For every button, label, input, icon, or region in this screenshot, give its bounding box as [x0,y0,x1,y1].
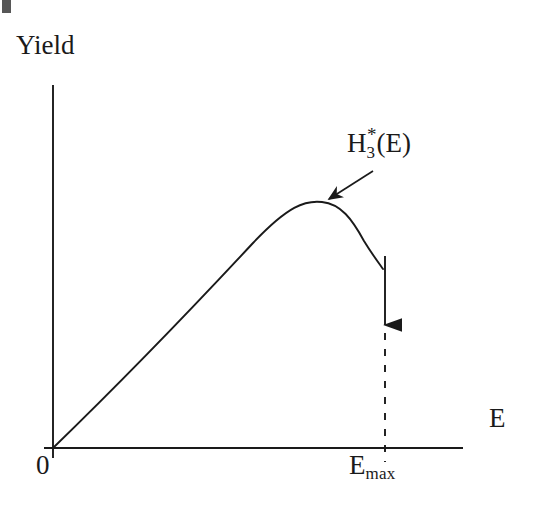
curve-label: H3*(E) [347,130,419,157]
emax-tick-label: Emax [349,452,395,479]
yield-curve [53,202,383,448]
figure-canvas [0,0,542,509]
x-axis-label: E [489,405,506,432]
curve-label-pointer-icon [329,171,373,199]
curve-label-superscript: * [367,124,377,145]
origin-label: 0 [36,452,50,479]
curve-label-argument: (E) [377,128,411,158]
emax-base: E [349,450,366,480]
y-axis-label: Yield [16,32,75,59]
yield-effort-figure: Yield E 0 Emax H3*(E) [0,0,542,509]
curve-label-subscript: 3 [367,143,376,162]
curve-label-base: H [347,128,367,158]
emax-subscript: max [366,464,396,483]
